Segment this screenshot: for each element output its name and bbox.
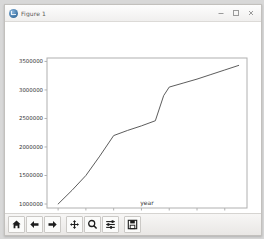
minimize-button[interactable]	[214, 7, 228, 19]
arrow-left-icon	[29, 219, 40, 230]
forward-button[interactable]	[44, 216, 61, 233]
arrow-right-icon	[47, 219, 58, 230]
y-tick-label: 3500000	[19, 58, 44, 64]
line-chart: 1000000150000020000002500000300000035000…	[5, 22, 261, 212]
figure-canvas[interactable]: 1000000150000020000002500000300000035000…	[5, 22, 261, 214]
zoom-button[interactable]	[84, 216, 101, 233]
maximize-button[interactable]	[229, 7, 243, 19]
navigation-toolbar	[5, 214, 261, 235]
close-button[interactable]	[244, 7, 258, 19]
pan-button[interactable]	[66, 216, 83, 233]
y-tick-label: 2000000	[19, 144, 44, 150]
magnifier-icon	[87, 219, 98, 230]
y-tick-label: 1500000	[19, 172, 44, 178]
sliders-icon	[105, 219, 116, 230]
y-tick-label: 2500000	[19, 115, 44, 121]
home-button[interactable]	[8, 216, 25, 233]
move-cross-icon	[69, 219, 80, 230]
matplotlib-figure-icon	[9, 9, 18, 18]
y-tick-label: 1000000	[19, 201, 44, 207]
x-axis-label: year	[140, 199, 154, 207]
back-button[interactable]	[26, 216, 43, 233]
figure-window: Figure 1 1000000150000020000002500000300…	[4, 4, 262, 236]
window-title: Figure 1	[21, 10, 213, 17]
subplots-button[interactable]	[102, 216, 119, 233]
home-icon	[11, 219, 22, 230]
data-line-population	[58, 65, 239, 204]
save-button[interactable]	[124, 216, 141, 233]
floppy-disk-icon	[127, 219, 138, 230]
window-title-bar: Figure 1	[5, 5, 261, 22]
y-tick-label: 3000000	[19, 87, 44, 93]
